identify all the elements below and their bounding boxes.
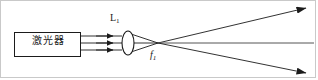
upper-diverging-ray [158,8,306,43]
focal-point-label: f1 [150,50,156,60]
converging-lens [122,31,134,55]
lower-diverging-ray [158,43,306,73]
lens-label-subscript: 1 [116,17,120,25]
optical-diagram-figure: 激光器 L1 f1 [0,0,318,80]
laser-source-label: 激光器 [22,36,74,46]
diverging-ray-group [158,8,314,73]
incident-beam-group [80,36,122,50]
focal-label-subscript: 1 [153,54,157,62]
lens-label: L1 [110,13,120,23]
